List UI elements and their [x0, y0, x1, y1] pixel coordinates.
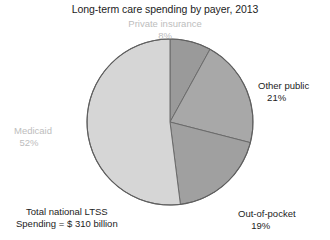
pie-chart-figure: Long-term care spending by payer, 2013 P…: [0, 0, 330, 240]
pie-label-medicaid-value: 52%: [14, 137, 52, 149]
total-spending-note-line1: Total national LTSS: [26, 206, 108, 217]
pie-label-other-public: Other public 21%: [258, 80, 309, 103]
pie-label-out-of-pocket-text: Out-of-pocket: [238, 208, 296, 219]
pie-label-medicaid: Medicaid 52%: [14, 125, 52, 148]
pie-label-other-public-text: Other public: [258, 80, 309, 91]
pie-label-out-of-pocket-value: 19%: [238, 220, 296, 232]
total-spending-note: Total national LTSS Spending = $ 310 bil…: [16, 206, 118, 229]
pie-slices: [87, 39, 253, 205]
pie-label-other-public-value: 21%: [258, 92, 309, 104]
pie-label-private-insurance-value: 8%: [0, 30, 330, 42]
pie-label-out-of-pocket: Out-of-pocket 19%: [238, 208, 296, 231]
total-spending-note-line2: Spending = $ 310 billion: [16, 218, 118, 230]
pie-label-private-insurance-text: Private insurance: [128, 18, 201, 29]
pie-label-private-insurance: Private insurance 8%: [0, 18, 330, 41]
pie-label-medicaid-text: Medicaid: [14, 125, 52, 136]
pie-slice-medicaid[interactable]: [87, 39, 180, 205]
